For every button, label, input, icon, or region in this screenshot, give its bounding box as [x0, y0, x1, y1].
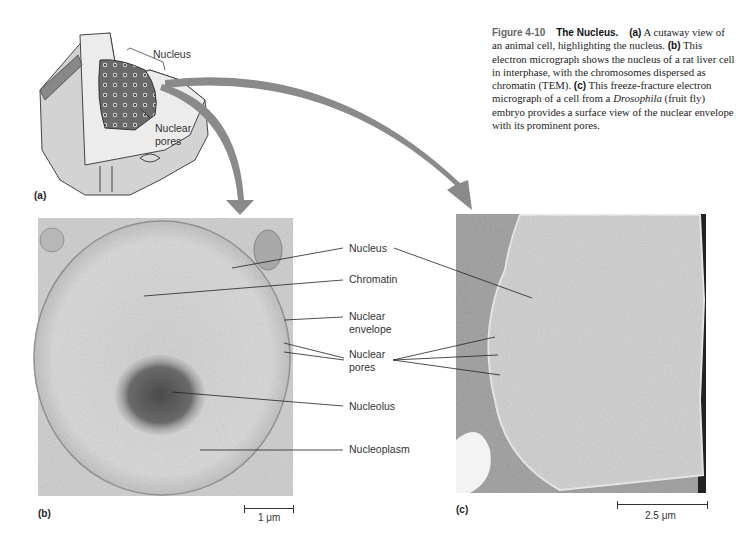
label-b-nuclear-pores-line2: pores	[349, 361, 375, 374]
label-b-nucleus: Nucleus	[349, 242, 387, 255]
label-b-chromatin: Chromatin	[349, 273, 397, 286]
panel-a-tag: (a)	[34, 190, 46, 201]
label-a-nucleus: Nucleus	[153, 48, 191, 61]
arrow-to-panel-c	[165, 77, 472, 210]
scale-bar-c	[617, 501, 708, 509]
label-b-nucleolus: Nucleolus	[349, 400, 395, 413]
caption-b-tag: (b)	[668, 40, 681, 51]
caption-a-tag: (a)	[629, 27, 641, 38]
panel-b-tag: (b)	[38, 508, 51, 519]
caption-c-tag: (c)	[574, 80, 586, 91]
label-b-nucleoplasm: Nucleoplasm	[349, 443, 410, 456]
label-b-nuclear-pores-line1: Nuclear	[349, 348, 385, 361]
label-b-nuclear-envelope-line1: Nuclear	[349, 310, 385, 323]
panel-c-tag: (c)	[456, 504, 468, 515]
figure-caption: Figure 4-10 The Nucleus. (a) A cutaway v…	[492, 26, 737, 132]
scale-label-b: 1 μm	[258, 512, 280, 523]
label-b-nuclear-envelope-line2: envelope	[349, 323, 392, 336]
figure-title: The Nucleus.	[556, 27, 618, 38]
label-a-nuclear-pores-line2: pores	[155, 135, 181, 148]
caption-c-italic: Drosophila	[613, 92, 662, 104]
figure-number: Figure 4-10	[492, 27, 545, 38]
scale-label-c: 2.5 μm	[645, 510, 676, 521]
label-a-nuclear-pores-line1: Nuclear	[155, 122, 191, 135]
